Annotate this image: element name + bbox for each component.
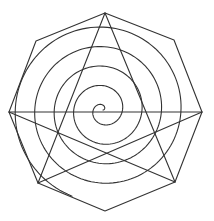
pentagram-lines bbox=[9, 13, 202, 183]
geometric-figure bbox=[0, 0, 214, 221]
figure-svg bbox=[0, 0, 214, 221]
star-line-5 bbox=[38, 112, 202, 183]
star-line-1 bbox=[38, 13, 105, 183]
